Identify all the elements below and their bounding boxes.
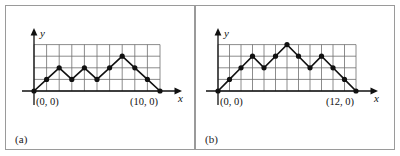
lattice-path-vertex [82, 65, 87, 70]
lattice-path-vertex [31, 88, 36, 93]
y-axis-arrowhead [31, 28, 38, 36]
lattice-path-vertex [319, 54, 324, 59]
end-coordinate-label: (12, 0) [326, 96, 354, 108]
lattice-path-vertex [145, 77, 150, 82]
lattice-path-vertex [94, 77, 99, 82]
lattice-path-vertex [44, 77, 49, 82]
lattice-path-vertex [215, 88, 220, 93]
panel-a-sublabel: (a) [15, 133, 28, 145]
lattice-path-vertex [57, 65, 62, 70]
origin-coordinate-label: (0, 0) [220, 96, 243, 108]
lattice-path-vertex [69, 77, 74, 82]
panel-b: yx(0, 0)(12, 0) (b) [195, 5, 395, 150]
x-axis-label: x [373, 92, 379, 104]
lattice-path-vertex [250, 54, 255, 59]
lattice-path-vertex [284, 42, 289, 47]
lattice-path-vertex [157, 88, 162, 93]
figure-two-lattice-paths: yx(0, 0)(10, 0) (a) yx(0, 0)(12, 0) (b) [0, 0, 400, 156]
lattice-path-vertex [238, 65, 243, 70]
origin-coordinate-label: (0, 0) [36, 96, 59, 108]
lattice-path-vertex [353, 88, 358, 93]
lattice-path-vertex [227, 77, 232, 82]
lattice-path-vertex [307, 65, 312, 70]
lattice-path-vertex [120, 54, 125, 59]
y-axis-label: y [39, 27, 45, 39]
lattice-path-plot-b: yx(0, 0)(12, 0) [196, 6, 394, 149]
lattice-path-vertex [273, 54, 278, 59]
lattice-path-vertex [107, 65, 112, 70]
lattice-path-plot-a: yx(0, 0)(10, 0) [6, 6, 194, 149]
x-axis-label: x [177, 92, 183, 104]
end-coordinate-label: (10, 0) [130, 96, 158, 108]
lattice-path-vertex [342, 77, 347, 82]
y-axis-arrowhead [215, 28, 222, 36]
panel-a: yx(0, 0)(10, 0) (a) [5, 5, 195, 150]
panel-b-sublabel: (b) [205, 133, 218, 145]
lattice-path-vertex [330, 65, 335, 70]
lattice-path-vertex [261, 65, 266, 70]
y-axis-label: y [223, 27, 229, 39]
lattice-path-vertex [132, 65, 137, 70]
lattice-path-vertex [296, 54, 301, 59]
